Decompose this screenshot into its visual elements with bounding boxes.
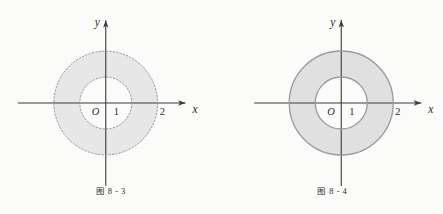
- x-axis-left: [18, 100, 186, 105]
- x-axis-label-right: x: [427, 103, 434, 115]
- y-axis-label-left: y: [94, 16, 101, 29]
- figure-board: x y O 1 2 图 8 - 3: [0, 0, 443, 214]
- figure-panel-right: x y O 1 2 图 8 - 4: [222, 0, 443, 214]
- origin-label-left: O: [92, 106, 100, 117]
- figure-caption-left: 图 8 - 3: [0, 184, 222, 196]
- figure-diagram-right: x y O 1 2: [222, 0, 443, 214]
- y-axis-label-right: y: [329, 16, 336, 29]
- x-axis-label-left: x: [192, 103, 198, 115]
- x-tick-label-1-right: 1: [349, 106, 354, 117]
- figure-caption-right: 图 8 - 4: [222, 184, 443, 196]
- x-tick-label-2-right: 2: [395, 106, 400, 117]
- x-tick-label-2-left: 2: [160, 106, 165, 117]
- figure-panel-left: x y O 1 2 图 8 - 3: [0, 0, 222, 214]
- x-axis-right: [254, 100, 421, 105]
- origin-label-right: O: [327, 106, 335, 117]
- figure-diagram-left: x y O 1 2: [0, 0, 222, 214]
- x-tick-label-1-left: 1: [114, 106, 119, 117]
